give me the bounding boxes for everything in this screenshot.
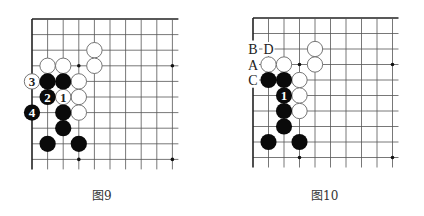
white-stone: [71, 89, 86, 104]
black-stone: [55, 104, 71, 120]
go-diagram-figure-9: 3124: [0, 0, 212, 185]
white-stone: [307, 41, 322, 56]
black-stone: 1: [276, 87, 292, 103]
move-number: 2: [44, 90, 51, 105]
caption-figure-9: 图9: [92, 186, 112, 203]
star-point: [171, 158, 175, 162]
white-stone: [292, 103, 307, 118]
black-stone: [55, 120, 71, 136]
star-point: [391, 156, 395, 160]
star-point: [77, 158, 81, 162]
black-stone: [291, 134, 307, 150]
white-stone: [87, 58, 102, 73]
black-stone: [260, 134, 276, 150]
white-stone: [87, 42, 102, 57]
go-board-figure-9: 3124: [0, 0, 212, 185]
point-label-a: A: [248, 58, 259, 73]
move-number: 3: [29, 74, 36, 89]
white-stone: [71, 74, 86, 89]
black-stone: [276, 103, 292, 119]
white-stone: [261, 57, 276, 72]
black-stone: [260, 72, 276, 88]
star-point: [298, 63, 302, 67]
go-diagram-figure-10: BDAC1: [212, 0, 424, 185]
white-stone: 1: [55, 89, 70, 104]
move-number: 1: [281, 88, 288, 103]
white-stone: [307, 57, 322, 72]
white-stone: [71, 105, 86, 120]
black-stone: [39, 73, 55, 89]
white-stone: [55, 58, 70, 73]
star-point: [391, 63, 395, 67]
black-stone: 4: [24, 104, 40, 120]
point-label-d: D: [263, 42, 273, 57]
white-stone: [40, 58, 55, 73]
point-label-c: C: [248, 73, 257, 88]
black-stone: [55, 73, 71, 89]
move-number: 4: [29, 105, 36, 120]
star-point: [171, 64, 175, 68]
white-stone: [276, 57, 291, 72]
black-stone: [71, 136, 87, 152]
white-stone: [292, 72, 307, 87]
black-stone: [276, 72, 292, 88]
white-stone: 3: [24, 74, 39, 89]
star-point: [298, 156, 302, 160]
black-stone: 2: [39, 89, 55, 105]
black-stone: [276, 118, 292, 134]
caption-figure-10: 图10: [311, 186, 338, 203]
point-label-b: B: [248, 42, 257, 57]
black-stone: [39, 136, 55, 152]
star-point: [77, 64, 81, 68]
white-stone: [292, 88, 307, 103]
go-board-figure-10: BDAC1: [212, 0, 424, 185]
move-number: 1: [60, 90, 67, 105]
